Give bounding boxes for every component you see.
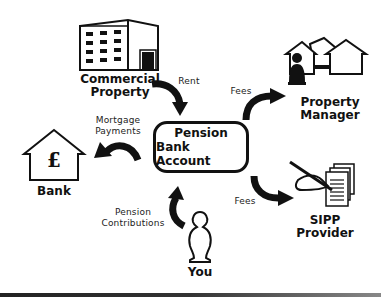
sipp-provider-label: SIPP Provider [280,214,370,240]
person-icon [186,210,214,264]
center-line2: Bank Account [156,140,246,168]
houses-with-person-icon [284,38,368,88]
contributions-label: Pension Contributions [98,207,168,229]
mortgage-line2: Payments [88,126,148,137]
fees-label-top: Fees [226,86,256,97]
contributions-line1: Pension [98,207,168,218]
hand-signing-documents-icon [288,160,360,212]
bank-label: Bank [24,185,84,198]
office-building-icon [78,18,160,72]
rent-label: Rent [174,76,204,87]
property-manager-line2: Manager [280,109,380,122]
pound-symbol: £ [42,148,66,172]
center-line1: Pension [174,126,228,140]
fees-label-bottom: Fees [230,196,260,207]
contributions-line2: Contributions [98,218,168,229]
mortgage-arrow-icon [92,138,140,164]
mortgage-line1: Mortgage [88,115,148,126]
bottom-border [0,293,381,297]
mortgage-label: Mortgage Payments [88,115,148,137]
property-manager-label: Property Manager [280,96,380,122]
you-label: You [180,266,220,279]
pension-bank-account-box: Pension Bank Account [153,121,249,173]
sipp-line2: Provider [280,227,370,240]
